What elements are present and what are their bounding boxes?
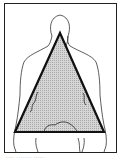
triangle-shape	[15, 33, 104, 132]
figure-caption: ···· ······· ·····	[6, 154, 44, 160]
body-shape-diagram	[0, 0, 122, 162]
